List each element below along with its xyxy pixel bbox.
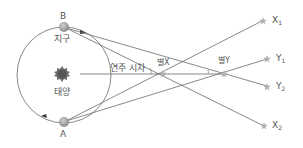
label-y2: Y2 [276,82,285,92]
label-y2-sub: 2 [282,85,286,92]
earth-b-icon [59,22,69,32]
label-point-a: A [60,130,66,139]
label-y1: Y1 [276,54,285,64]
label-x2-sub: 2 [278,124,282,131]
parallax-angle-mark-y [208,70,209,74]
label-annual-parallax: 연주 시차 [110,64,145,73]
parallax-angle-mark-x [150,68,151,74]
label-star-x: 별X [157,59,169,67]
label-x1: X1 [272,16,282,26]
star-y1-icon [263,55,271,63]
sun-icon [54,66,70,82]
label-sun: 태양 [54,88,70,97]
label-x2: X2 [272,121,282,131]
sightline-a-y1 [66,59,267,121]
star-y2-icon [263,83,271,91]
diagram-canvas [0,0,303,148]
label-earth: 지구 [54,35,70,44]
label-x1-sub: 1 [278,19,282,26]
star-x1-icon [259,17,267,25]
earth-a-icon [59,117,69,127]
annual-parallax-diagram: B 지구 태양 A 연주 시차 별X 별Y X1 Y1 Y2 X2 [0,0,303,148]
label-point-b: B [60,12,66,21]
star-x2-icon [260,122,268,130]
sightline-a-x1 [66,21,262,121]
label-star-y: 별Y [218,57,230,65]
label-y1-sub: 1 [282,57,286,64]
